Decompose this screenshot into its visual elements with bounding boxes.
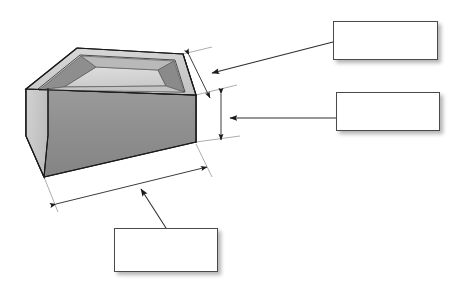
brick-left-face bbox=[26, 88, 48, 177]
extension-line-base-right bbox=[196, 144, 212, 177]
leader-line-callout-1 bbox=[212, 42, 333, 73]
callout-box-width[interactable] bbox=[333, 21, 438, 60]
extension-line-base-left bbox=[44, 177, 58, 212]
extension-line-bottom bbox=[196, 136, 240, 142]
callout-box-length[interactable] bbox=[114, 228, 218, 272]
figure-root bbox=[0, 0, 464, 294]
brick-front-face bbox=[26, 89, 196, 177]
leader-line-callout-3 bbox=[141, 189, 166, 228]
extension-line-top bbox=[183, 47, 212, 54]
callout-box-height[interactable] bbox=[336, 92, 440, 131]
extension-line-mid bbox=[196, 85, 237, 95]
length-dimension bbox=[56, 167, 207, 204]
length-dimension-line bbox=[56, 167, 207, 204]
brick-solid bbox=[26, 48, 196, 177]
